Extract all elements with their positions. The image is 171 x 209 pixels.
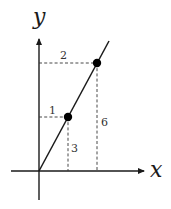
label-x1: 1 (49, 104, 56, 117)
proportional-line-diagram: 1 3 2 6 x y (0, 0, 171, 209)
label-y2: 6 (101, 116, 108, 129)
label-x2: 2 (60, 49, 67, 62)
x-axis-label: x (150, 157, 163, 182)
label-y1: 3 (71, 142, 78, 155)
y-axis-label: y (32, 4, 46, 29)
point-1 (64, 113, 72, 121)
point-2 (93, 59, 101, 67)
